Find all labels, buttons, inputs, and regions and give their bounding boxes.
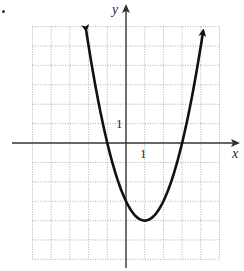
y-axis-label: y (112, 2, 118, 18)
x-tick-label-1: 1 (140, 146, 147, 162)
parabola-graph (0, 0, 244, 271)
axes (12, 6, 238, 268)
x-axis-label: x (232, 146, 238, 162)
y-tick-label-1: 1 (116, 116, 123, 132)
